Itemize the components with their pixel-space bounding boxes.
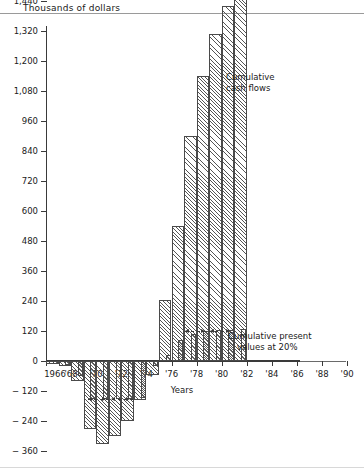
y-axis-tick-label-text: 600 [22,206,38,216]
x-axis-tick-label: '78 [190,369,203,379]
bar-cumulative-present-value [53,361,58,364]
y-axis-tick [41,31,47,32]
leader-arrowhead [201,329,205,333]
y-axis-tick [41,181,47,182]
y-axis-tick-label-text: 960 [22,116,38,126]
bar-cumulative-present-value [191,334,196,362]
y-axis-tick [41,421,47,422]
y-axis-tick [41,301,47,302]
bar-cumulative-cash-flow [184,136,197,361]
x-axis-tick [197,361,198,366]
x-axis-tick-label: '80 [215,369,228,379]
y-axis-tick [41,1,47,2]
bar-cumulative-present-value [153,361,158,366]
y-axis-tick [41,241,47,242]
x-axis-tick-label: '90 [341,369,354,379]
y-axis-tick-label-text: 840 [22,146,38,156]
annotation-cash-line1: Cumulative [226,72,275,82]
x-axis-tick [347,361,348,366]
bar-cumulative-present-value [65,361,70,365]
y-axis-tick-label-text: 720 [22,176,38,186]
y-axis-tick [41,61,47,62]
y-axis-tick [41,271,47,272]
bar-cumulative-cash-flow [159,300,172,361]
leader-arrowhead [102,397,106,401]
x-axis-tick-label: '76 [165,369,178,379]
x-axis-tick-label: '86 [290,369,303,379]
y-axis-tick-label-text: 0 [33,356,38,366]
x-axis-title: Years [0,385,364,395]
bar-cumulative-present-value [78,361,83,376]
annotation-cash-line2: cash flows [226,83,270,93]
y-axis-tick-label-text: − 240 [12,416,38,426]
leader-arrowhead [88,397,92,401]
bar-cumulative-present-value [203,331,208,361]
x-axis-tick [272,361,273,366]
y-axis-tick-label-text: 120 [22,326,38,336]
annotation-pv-line2: values at 20% [228,342,312,353]
x-axis-tick-label: '82 [240,369,253,379]
annotation-pv-line1: Cumulative present [228,331,312,341]
bar-cumulative-cash-flow [209,34,222,362]
y-axis-tick [41,121,47,122]
top-divider [0,13,364,14]
y-axis-tick [41,91,47,92]
bar-cumulative-present-value [178,340,183,361]
leader-arrowhead [111,397,115,401]
y-axis-tick-label-text: 1,320 [14,26,38,36]
annotation-cumulative-present-values: Cumulative present values at 20% [228,331,312,353]
bar-cumulative-cash-flow [222,6,235,361]
y-axis-tick-label-text: 1,080 [14,86,38,96]
x-axis-tick-label: 1966 [44,369,66,379]
leader-arrowhead [210,329,214,333]
x-axis-tick-label: '84 [265,369,278,379]
y-axis-tick-label-text: 240 [22,296,38,306]
y-axis-tick-label-text: − 360 [12,446,38,456]
y-axis-tick [41,211,47,212]
y-axis-tick-label-text: 1,200 [14,56,38,66]
bar-cumulative-present-value [216,330,221,361]
leader-arrowhead [185,329,189,333]
y-axis-tick [41,331,47,332]
y-axis-tick [41,151,47,152]
bar-cumulative-present-value [166,355,171,361]
x-axis-tick [297,361,298,366]
annotation-cumulative-cash-flows: Cumulative cash flows [226,72,275,94]
x-axis-tick [322,361,323,366]
bar-cumulative-cash-flow [197,76,210,361]
x-axis-tick [247,361,248,366]
x-axis-tick [172,361,173,366]
y-axis-tick-label-text: 1,440 [14,0,38,6]
leader-arrowhead [126,397,130,401]
y-axis-line [46,26,47,364]
y-axis-tick-label-text: 480 [22,236,38,246]
x-axis-tick [222,361,223,366]
x-axis-tick-label: '88 [316,369,329,379]
chart-root: Thousands of dollars 1,5601,4401,3201,20… [0,0,364,468]
bar-cumulative-cash-flow [234,0,247,361]
y-axis-tick-label-text: 360 [22,266,38,276]
y-axis-tick [41,451,47,452]
